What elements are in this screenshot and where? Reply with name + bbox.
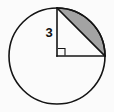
radius-length-label: 3 xyxy=(45,25,52,40)
circle-diagram: 3 xyxy=(0,0,114,112)
geometry-figure: 3 xyxy=(0,0,114,112)
